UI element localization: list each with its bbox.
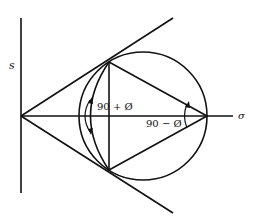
- diagram-svg: s σ 90 + Ø 90 − Ø: [0, 0, 260, 224]
- shear-axis-label: s: [9, 59, 15, 72]
- lower-angle-label: 90 − Ø: [146, 118, 182, 129]
- normal-axis-label: σ: [238, 110, 246, 121]
- mohr-circle-diagram: s σ 90 + Ø 90 − Ø: [0, 0, 260, 224]
- upper-angle-label: 90 + Ø: [97, 101, 133, 112]
- lower-envelope-line: [21, 116, 173, 213]
